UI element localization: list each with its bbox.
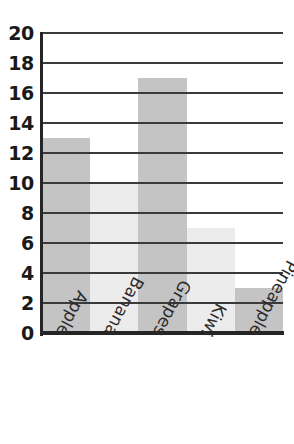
y-axis-tick-label: 6 [0,234,34,253]
y-axis-tick-label: 0 [0,324,34,343]
y-axis-tick-label: 20 [0,24,34,43]
y-axis-tick-label: 12 [0,144,34,163]
y-axis-line [40,32,43,336]
x-axis-category-labels: AppleBananaGrapesKiwiPineapple [42,333,283,444]
plot-area [42,33,283,333]
y-axis-tick-label: 14 [0,114,34,133]
y-axis-tick-label: 4 [0,264,34,283]
x-label-slot: Banana [90,333,138,444]
bar-chart: 02468101214161820 AppleBananaGrapesKiwiP… [0,0,294,444]
y-axis-tick-label: 16 [0,84,34,103]
x-label-slot: Grapes [138,333,186,444]
x-label-slot: Kiwi [187,333,235,444]
y-axis-tick-label: 2 [0,294,34,313]
x-label-slot: Pineapple [235,333,283,444]
bar-series [42,33,283,333]
y-axis-tick-label: 10 [0,174,34,193]
y-axis-tick-label: 8 [0,204,34,223]
y-axis-tick-label: 18 [0,54,34,73]
x-label-slot: Apple [42,333,90,444]
